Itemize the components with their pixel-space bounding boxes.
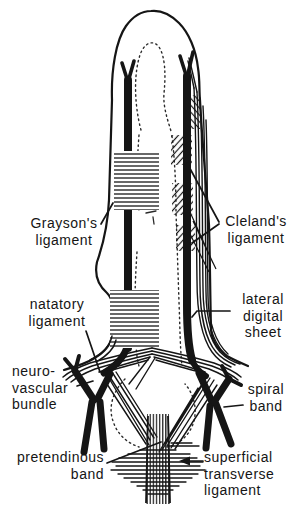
natatory-transverse-fibers [63,348,241,382]
label-superficial-transverse-ligament: superficial transverse ligament [204,449,302,499]
label-line: ligament [204,482,302,499]
label-line: sheet [233,324,293,341]
label-line: ligament [22,313,92,330]
label-graysons-ligament: Grayson's ligament [22,215,106,248]
label-line: neuro- [12,363,80,380]
label-pretendinous-band: pretendinous band [0,449,104,482]
label-line: band [0,466,104,483]
label-line: natatory [22,296,92,313]
label-line: transverse [204,466,302,483]
label-line: Grayson's [22,215,106,232]
label-line: digital [233,308,293,325]
label-line: band [241,398,291,415]
label-line: bundle [12,396,80,413]
label-line: superficial [204,449,302,466]
label-line: ligament [217,230,295,247]
digital-fascia-diagram: Grayson's ligament Cleland's ligament na… [0,0,302,513]
label-line: spiral [241,381,291,398]
label-spiral-band: spiral band [241,381,291,414]
joint-crease-marks [146,211,156,224]
graysons-ligament-hatch [114,151,159,210]
label-line: Cleland's [217,213,295,230]
label-neurovascular-bundle: neuro- vascular bundle [12,363,80,413]
label-line: pretendinous [0,449,104,466]
natatory-ligament-hatch [110,290,159,348]
label-line: vascular [12,380,80,397]
label-lateral-digital-sheet: lateral digital sheet [233,291,293,341]
finger-fascia-illustration [0,0,302,513]
label-line: ligament [22,232,106,249]
label-line: lateral [233,291,293,308]
label-natatory-ligament: natatory ligament [22,296,92,329]
label-clelands-ligament: Cleland's ligament [217,213,295,246]
